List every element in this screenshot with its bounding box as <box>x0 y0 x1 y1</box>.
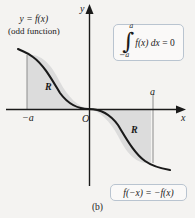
y-axis-arrow-icon <box>86 4 94 14</box>
panel-caption: (b) <box>0 202 195 213</box>
tick-label-positive-a: a <box>150 86 155 98</box>
tick-label-negative-a: −a <box>22 112 34 124</box>
function-label: y = f(x) (odd function) <box>8 14 60 36</box>
function-label-line1: y = f(x) <box>20 14 49 24</box>
oddness-callout: f(−x) = −f(x) <box>110 184 187 201</box>
integral-upper-limit: a <box>129 23 133 30</box>
differential: dx <box>151 38 160 48</box>
region-label-right: R <box>131 124 138 136</box>
odd-function-figure: y = f(x) (odd function) y x O −a a R R ∫… <box>0 0 195 218</box>
integral-body: f(x) dx = 0 <box>135 38 174 48</box>
function-label-line2: (odd function) <box>8 26 60 36</box>
integral-callout: ∫ a −a f(x) dx = 0 <box>113 24 184 61</box>
integral-expression: ∫ a −a f(x) dx = 0 <box>114 25 183 60</box>
shaded-region-right <box>89 109 151 163</box>
integral-equals: = 0 <box>162 38 174 48</box>
x-axis-label: x <box>181 112 185 124</box>
shaded-region-left <box>27 55 89 109</box>
integral-sign-icon: ∫ a −a <box>122 30 134 53</box>
integral-lower-limit: −a <box>119 52 129 59</box>
integrand: f(x) <box>135 38 148 48</box>
region-label-left: R <box>45 81 52 93</box>
origin-label: O <box>82 113 89 125</box>
oddness-formula: f(−x) = −f(x) <box>111 185 186 200</box>
y-axis-label: y <box>80 3 84 15</box>
